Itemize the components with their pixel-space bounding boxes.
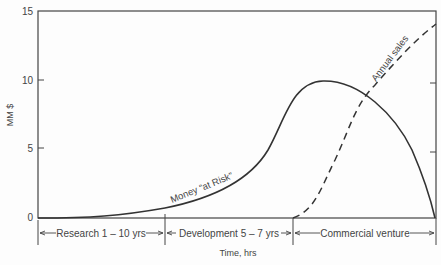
plot-frame [38, 11, 436, 218]
annual-sales-curve [293, 24, 436, 218]
y-axis-title: MM $ [5, 104, 15, 127]
y-tick-labels: 15 10 5 0 [22, 6, 34, 223]
money-curve-label: Money “at Risk” [169, 170, 235, 205]
y-tick-10: 10 [22, 75, 34, 86]
x-axis-title: Time, hrs [219, 248, 257, 258]
y-tick-5: 5 [27, 143, 33, 154]
sales-curve-label: Annual sales [369, 33, 411, 83]
phase-research-label: Research 1 – 10 yrs [56, 228, 146, 239]
phase-commercial-label: Commercial venture [320, 228, 410, 239]
y-axis-ticks [38, 80, 436, 152]
phase-development-label: Development 5 – 7 yrs [179, 228, 279, 239]
y-tick-0: 0 [27, 212, 33, 223]
chart: 15 10 5 0 MM $ Money “at Risk” Annual sa… [0, 0, 441, 265]
y-tick-15: 15 [22, 6, 34, 17]
money-at-risk-curve [38, 81, 435, 218]
